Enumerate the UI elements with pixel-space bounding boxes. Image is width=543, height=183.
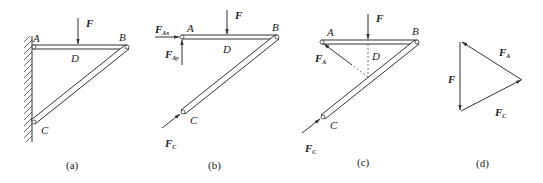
panel-a: F A B D C (a)	[24, 17, 129, 172]
pin-c	[181, 110, 185, 114]
panel-b: F FAx FAy FC A B D C (b)	[154, 9, 279, 172]
panel-c: F FA FC A B D C (c)	[302, 12, 419, 169]
bar-bc	[31, 45, 129, 124]
force-fc-arrow	[162, 114, 180, 128]
pin-c	[321, 115, 325, 119]
point-c-label: C	[330, 119, 338, 131]
force-f-label: F	[234, 9, 243, 21]
point-b-label: B	[272, 21, 279, 33]
bar-ab	[33, 45, 127, 49]
force-fc-label: FC	[494, 106, 507, 119]
pin-c	[32, 120, 36, 124]
bar-ab	[322, 40, 417, 44]
wall-support	[24, 36, 32, 142]
panel-d: F FA FC (d)	[447, 42, 522, 170]
pin-a	[180, 35, 184, 39]
point-a-label: A	[32, 32, 40, 44]
caption-c: (c)	[357, 156, 370, 169]
caption-a: (a)	[66, 159, 79, 172]
pin-b	[275, 35, 279, 39]
point-d-label: D	[371, 50, 380, 62]
force-fa-arrow	[324, 44, 352, 65]
force-fc-arrow	[302, 119, 320, 133]
point-c-label: C	[190, 114, 198, 126]
bar-ab	[182, 35, 277, 39]
point-a-label: A	[326, 26, 334, 38]
force-triangle-fa	[462, 42, 522, 80]
force-f-label: F	[85, 17, 94, 29]
force-f-label: F	[375, 12, 384, 24]
force-fa-label: FA	[314, 52, 326, 65]
force-triangle-fc	[461, 80, 521, 111]
statics-diagram: F A B D C (a) F FAx FAy FC A B D C (b) F	[0, 0, 543, 183]
pin-b	[415, 40, 419, 44]
pin-a	[320, 40, 324, 44]
force-f-label: F	[447, 73, 456, 85]
caption-b: (b)	[208, 159, 221, 172]
force-fax-label: FAx	[154, 23, 169, 36]
point-b-label: B	[119, 31, 126, 43]
point-a-label: A	[186, 22, 194, 34]
force-fa-line-of-action	[352, 65, 368, 77]
caption-d: (d)	[476, 157, 489, 170]
pin-a	[32, 45, 36, 49]
point-d-label: D	[222, 43, 231, 55]
force-fa-label: FA	[498, 46, 510, 59]
force-fc-label: FC	[164, 137, 177, 150]
point-c-label: C	[41, 124, 49, 136]
pin-b	[125, 45, 129, 49]
force-fay-label: FAy	[164, 48, 179, 61]
force-fc-label: FC	[304, 142, 317, 155]
point-d-label: D	[70, 52, 79, 64]
bar-bc	[321, 40, 419, 119]
point-b-label: B	[412, 25, 419, 37]
